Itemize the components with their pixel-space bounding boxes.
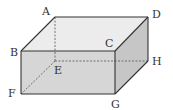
cuboid-diagram: A B C D E F G H [0,0,173,110]
front-face-BCGF [21,51,115,94]
vertex-label-g: G [111,98,120,110]
vertex-label-f: F [8,87,16,100]
vertex-label-d: D [152,8,161,21]
vertex-label-a: A [41,5,51,18]
vertex-label-e: E [54,64,62,77]
vertex-label-b: B [10,46,18,59]
vertex-label-h: H [152,55,162,68]
vertex-label-c: C [105,37,113,50]
